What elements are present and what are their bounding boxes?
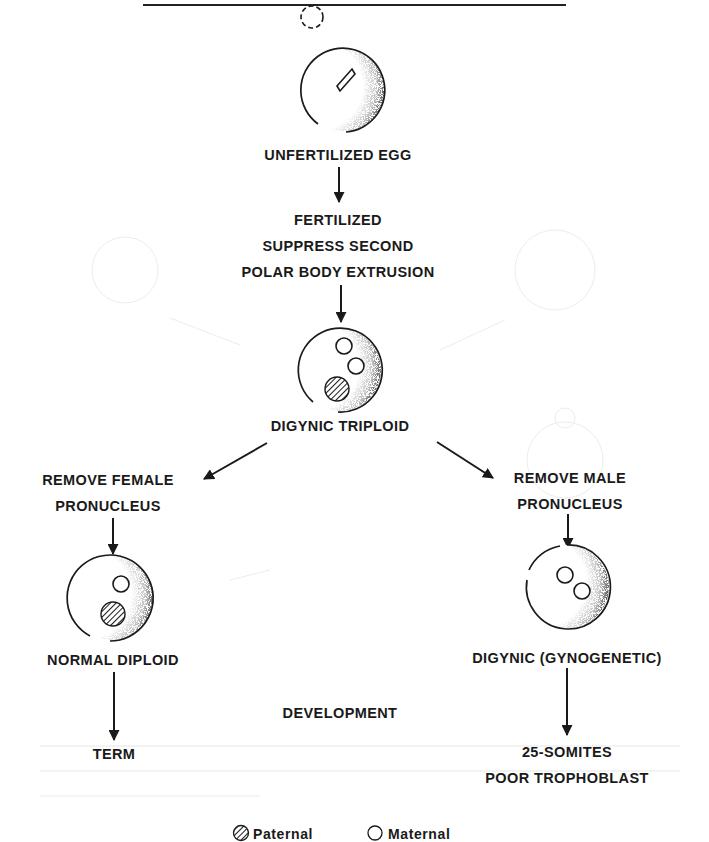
maternal-pronucleus [557, 567, 573, 583]
digynic-gynogenetic-cell [526, 545, 610, 629]
legend-maternal-label: Maternal [388, 826, 450, 842]
digynic-gynogenetic-label: DIGYNIC (GYNOGENETIC) [472, 650, 662, 666]
normal-diploid-cell [67, 555, 155, 641]
maternal-pronucleus [574, 583, 590, 599]
maternal-pronucleus [336, 338, 352, 354]
digynic-triploid-label: DIGYNIC TRIPLOID [271, 418, 410, 434]
legend: Paternal Maternal [234, 826, 451, 842]
remove-female-label-line2: PRONUCLEUS [55, 498, 161, 514]
somites-label-line1: 25-SOMITES [522, 744, 612, 760]
term-label: TERM [93, 746, 136, 762]
cell-shading [527, 546, 609, 628]
remove-female-label-line1: REMOVE FEMALE [42, 472, 174, 488]
fertilized-label-line3: POLAR BODY EXTRUSION [241, 264, 434, 280]
arrow-triploid-to-remove-male [437, 442, 493, 478]
remove-male-label-line1: REMOVE MALE [514, 470, 626, 486]
pronuclear-transplant-diagram: UNFERTILIZED EGG FERTILIZED SUPPRESS SEC… [0, 0, 709, 842]
fertilized-label-line1: FERTILIZED [294, 212, 382, 228]
arrow-triploid-to-remove-female [204, 443, 267, 479]
normal-diploid-label: NORMAL DIPLOID [47, 652, 179, 668]
digynic-triploid-cell [298, 328, 382, 412]
hatched-circle-icon [234, 826, 249, 841]
maternal-pronucleus [348, 358, 364, 374]
legend-paternal-label: Paternal [253, 826, 313, 842]
paternal-pronucleus [101, 602, 125, 626]
polar-body-dashed [301, 6, 323, 28]
paternal-pronucleus [325, 377, 349, 401]
somites-label-line2: POOR TROPHOBLAST [485, 770, 649, 786]
open-circle-icon [368, 826, 382, 840]
unfertilized-egg-cell [301, 6, 386, 132]
remove-male-label-line2: PRONUCLEUS [517, 496, 623, 512]
development-label: DEVELOPMENT [283, 705, 398, 721]
maternal-pronucleus [113, 576, 129, 592]
fertilized-label-line2: SUPPRESS SECOND [262, 238, 413, 254]
unfertilized-egg-label: UNFERTILIZED EGG [264, 147, 411, 163]
